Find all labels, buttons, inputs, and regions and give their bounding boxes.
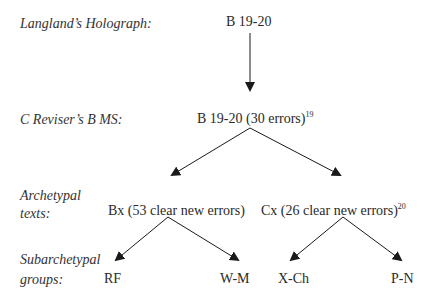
node-pn-text: P-N — [391, 271, 414, 286]
footnote-marker: 19 — [305, 110, 313, 119]
edge-bx-to-wm — [168, 217, 238, 260]
level-label-subarchetypal-line2: groups: — [20, 270, 63, 289]
node-rf: RF — [104, 270, 121, 288]
edge-cx-to-xch — [291, 217, 343, 260]
node-reviser-text: B 19-20 (30 errors) — [197, 111, 305, 126]
node-holograph: B 19-20 — [226, 13, 272, 31]
edge-reviser-to-bx — [172, 128, 250, 175]
node-rf-text: RF — [104, 271, 121, 286]
node-wm-text: W-M — [220, 271, 250, 286]
edge-cx-to-pn — [343, 217, 401, 260]
level-label-holograph: Langland’s Holograph: — [20, 14, 152, 33]
level-label-reviser: C Reviser’s B MS: — [20, 110, 123, 129]
level-label-archetypal-line1: Archetypal — [20, 186, 81, 205]
node-bx: Bx (53 clear new errors) — [108, 202, 245, 220]
level-label-subarchetypal-line1: Subarchetypal — [20, 250, 100, 269]
node-holograph-text: B 19-20 — [226, 14, 272, 29]
level-label-archetypal-line2: texts: — [20, 204, 50, 223]
node-xch: X-Ch — [278, 270, 309, 288]
node-xch-text: X-Ch — [278, 271, 309, 286]
node-reviser: B 19-20 (30 errors)19 — [197, 110, 313, 128]
footnote-marker: 20 — [398, 202, 406, 211]
edge-reviser-to-cx — [250, 128, 340, 175]
node-wm: W-M — [220, 270, 250, 288]
edge-bx-to-rf — [116, 217, 168, 260]
node-cx-text: Cx (26 clear new errors) — [261, 203, 398, 218]
node-pn: P-N — [391, 270, 414, 288]
node-cx: Cx (26 clear new errors)20 — [261, 202, 406, 220]
node-bx-text: Bx (53 clear new errors) — [108, 203, 245, 218]
